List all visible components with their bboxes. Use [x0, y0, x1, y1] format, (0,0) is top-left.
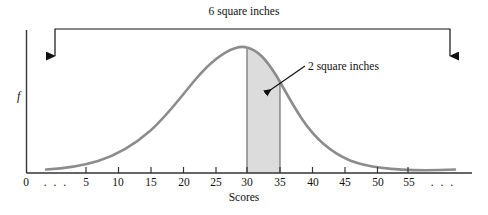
- x-tick-label-10: 10: [112, 176, 124, 188]
- x-tick-label-50: 50: [372, 176, 384, 188]
- x-axis-ticks: [86, 167, 408, 173]
- x-tick-label-right-ellipsis: . . .: [431, 176, 455, 188]
- y-axis-label: f: [17, 89, 20, 104]
- area-label-2-square-inches: 2 square inches: [308, 60, 379, 72]
- x-tick-label-25: 25: [210, 176, 222, 188]
- x-tick-label-left-ellipsis: . . .: [44, 176, 68, 188]
- x-tick-label-20: 20: [178, 176, 190, 188]
- x-tick-label-15: 15: [145, 176, 157, 188]
- x-axis-title: Scores: [0, 191, 488, 203]
- x-tick-label-45: 45: [339, 176, 351, 188]
- x-tick-label-35: 35: [274, 176, 286, 188]
- x-tick-label-55: 55: [403, 176, 415, 188]
- x-tick-label-40: 40: [307, 176, 319, 188]
- x-tick-label-0: 0: [23, 176, 29, 188]
- x-tick-label-5: 5: [83, 176, 89, 188]
- x-tick-label-30: 30: [241, 176, 253, 188]
- distribution-figure: 6 square inches 2 square inches f Scores…: [0, 0, 488, 215]
- shaded-area-region: [247, 48, 280, 174]
- span-label-6-square-inches: 6 square inches: [0, 5, 488, 17]
